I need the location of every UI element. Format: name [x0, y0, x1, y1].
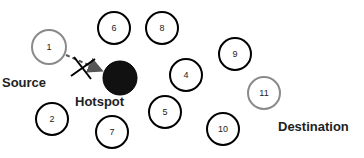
node-11-label: 11 — [259, 88, 268, 98]
node-2: 2 — [36, 103, 68, 135]
node-4: 4 — [170, 59, 202, 91]
node-9: 9 — [219, 38, 251, 70]
node-6: 6 — [98, 12, 130, 44]
network-diagram: 1 2 4 5 6 7 8 9 10 11 Source Hotspot Des… — [0, 0, 364, 158]
node-6-label: 6 — [111, 23, 116, 33]
node-10: 10 — [207, 113, 239, 145]
node-5: 5 — [149, 96, 181, 128]
hotspot-node — [103, 61, 137, 95]
blocked-x-icon — [71, 57, 95, 79]
node-2-label: 2 — [49, 114, 54, 124]
node-7-label: 7 — [109, 127, 114, 137]
node-1: 1 — [32, 30, 66, 64]
node-1-label: 1 — [46, 42, 51, 52]
node-10-label: 10 — [218, 124, 228, 134]
node-11: 11 — [248, 77, 280, 109]
node-7: 7 — [96, 116, 128, 148]
destination-label: Destination — [278, 119, 349, 134]
node-5-label: 5 — [162, 107, 167, 117]
node-4-label: 4 — [183, 70, 188, 80]
node-9-label: 9 — [232, 49, 237, 59]
hotspot-label: Hotspot — [75, 94, 125, 109]
node-8: 8 — [146, 12, 178, 44]
source-label: Source — [2, 75, 46, 90]
node-8-label: 8 — [159, 23, 164, 33]
